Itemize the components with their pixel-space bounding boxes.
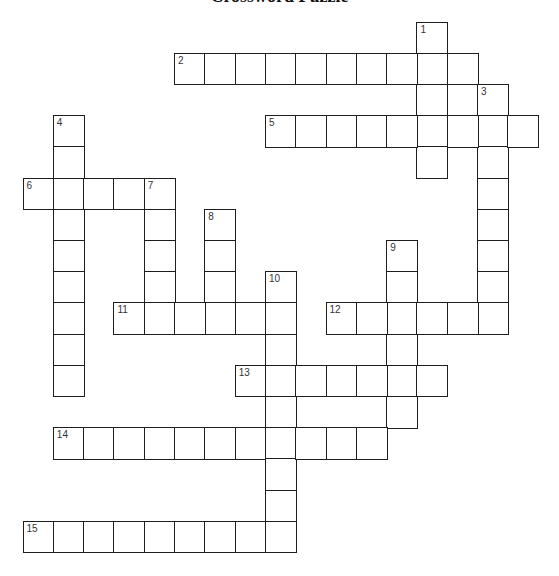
crossword-cell[interactable] xyxy=(265,365,297,398)
crossword-cell[interactable] xyxy=(265,53,297,86)
crossword-cell[interactable] xyxy=(447,53,479,86)
crossword-cell[interactable] xyxy=(265,490,297,523)
crossword-cell[interactable] xyxy=(204,302,236,335)
crossword-cell[interactable] xyxy=(144,271,176,304)
clue-number: 13 xyxy=(239,368,250,378)
crossword-cell[interactable] xyxy=(83,521,115,554)
crossword-cell[interactable] xyxy=(265,521,297,554)
crossword-cell[interactable] xyxy=(144,209,176,242)
crossword-cell[interactable] xyxy=(53,178,85,211)
crossword-cell[interactable]: 15 xyxy=(23,521,55,554)
crossword-cell[interactable] xyxy=(144,521,176,554)
crossword-cell[interactable]: 9 xyxy=(386,240,418,273)
crossword-cell[interactable] xyxy=(356,427,388,460)
crossword-cell[interactable] xyxy=(295,427,327,460)
crossword-cell[interactable]: 2 xyxy=(174,53,206,86)
crossword-cell[interactable] xyxy=(326,365,358,398)
crossword-cell[interactable] xyxy=(204,427,236,460)
crossword-cell[interactable] xyxy=(386,334,418,367)
crossword-cell[interactable] xyxy=(83,427,115,460)
crossword-cell[interactable] xyxy=(174,302,206,335)
clue-number: 12 xyxy=(330,305,341,315)
crossword-cell[interactable]: 4 xyxy=(53,115,85,148)
crossword-cell[interactable]: 12 xyxy=(326,302,358,335)
crossword-cell[interactable] xyxy=(477,271,509,304)
crossword-cell[interactable] xyxy=(204,271,236,304)
crossword-cell[interactable] xyxy=(477,146,509,179)
crossword-cell[interactable]: 1 xyxy=(416,22,448,55)
crossword-cell[interactable] xyxy=(53,271,85,304)
crossword-cell[interactable] xyxy=(144,240,176,273)
crossword-cell[interactable] xyxy=(386,302,418,335)
crossword-cell[interactable] xyxy=(356,53,388,86)
crossword-cell[interactable]: 14 xyxy=(53,427,85,460)
crossword-cell[interactable] xyxy=(477,209,509,242)
crossword-cell[interactable] xyxy=(174,521,206,554)
crossword-cell[interactable] xyxy=(235,302,267,335)
crossword-cell[interactable] xyxy=(235,427,267,460)
crossword-cell[interactable] xyxy=(356,302,388,335)
crossword-cell[interactable] xyxy=(113,427,145,460)
clue-number: 2 xyxy=(178,56,184,66)
crossword-cell[interactable]: 3 xyxy=(477,84,509,117)
crossword-cell[interactable] xyxy=(113,178,145,211)
crossword-cell[interactable] xyxy=(477,302,509,335)
crossword-cell[interactable] xyxy=(83,178,115,211)
crossword-cell[interactable] xyxy=(53,334,85,367)
crossword-cell[interactable] xyxy=(53,240,85,273)
crossword-cell[interactable] xyxy=(295,365,327,398)
crossword-cell[interactable] xyxy=(477,115,509,148)
clue-number: 6 xyxy=(27,181,33,191)
crossword-cell[interactable] xyxy=(386,365,418,398)
crossword-cell[interactable]: 5 xyxy=(265,115,297,148)
crossword-cell[interactable] xyxy=(204,521,236,554)
crossword-cell[interactable] xyxy=(265,396,297,429)
crossword-cell[interactable] xyxy=(356,115,388,148)
crossword-cell[interactable]: 13 xyxy=(235,365,267,398)
crossword-cell[interactable] xyxy=(204,240,236,273)
crossword-cell[interactable] xyxy=(416,302,448,335)
crossword-cell[interactable]: 10 xyxy=(265,271,297,304)
crossword-cell[interactable] xyxy=(386,53,418,86)
crossword-cell[interactable] xyxy=(113,521,145,554)
crossword-cell[interactable] xyxy=(386,271,418,304)
crossword-cell[interactable]: 7 xyxy=(144,178,176,211)
crossword-cell[interactable] xyxy=(507,115,539,148)
crossword-cell[interactable] xyxy=(265,334,297,367)
crossword-cell[interactable] xyxy=(416,365,448,398)
crossword-cell[interactable] xyxy=(477,178,509,211)
crossword-cell[interactable] xyxy=(144,302,176,335)
crossword-cell[interactable] xyxy=(265,427,297,460)
crossword-cell[interactable]: 6 xyxy=(23,178,55,211)
crossword-cell[interactable] xyxy=(326,53,358,86)
crossword-cell[interactable]: 8 xyxy=(204,209,236,242)
crossword-cell[interactable] xyxy=(477,240,509,273)
crossword-cell[interactable] xyxy=(447,115,479,148)
crossword-cell[interactable] xyxy=(265,302,297,335)
crossword-cell[interactable] xyxy=(174,427,206,460)
crossword-cell[interactable] xyxy=(235,521,267,554)
crossword-cell[interactable] xyxy=(416,115,448,148)
crossword-cell[interactable] xyxy=(356,365,388,398)
crossword-cell[interactable] xyxy=(386,115,418,148)
crossword-cell[interactable] xyxy=(204,53,236,86)
crossword-grid: 123456789101112131415 xyxy=(0,0,559,576)
crossword-cell[interactable] xyxy=(53,146,85,179)
crossword-cell[interactable] xyxy=(447,302,479,335)
crossword-cell[interactable] xyxy=(295,115,327,148)
crossword-cell[interactable] xyxy=(416,84,448,117)
crossword-cell[interactable] xyxy=(53,209,85,242)
crossword-cell[interactable] xyxy=(53,365,85,398)
crossword-cell[interactable] xyxy=(53,302,85,335)
crossword-cell[interactable] xyxy=(265,458,297,491)
crossword-cell[interactable] xyxy=(416,146,448,179)
crossword-cell[interactable] xyxy=(326,115,358,148)
crossword-cell[interactable] xyxy=(144,427,176,460)
crossword-cell[interactable] xyxy=(386,396,418,429)
crossword-cell[interactable] xyxy=(416,53,448,86)
crossword-cell[interactable] xyxy=(295,53,327,86)
crossword-cell[interactable] xyxy=(235,53,267,86)
crossword-cell[interactable] xyxy=(326,427,358,460)
crossword-cell[interactable] xyxy=(53,521,85,554)
crossword-cell[interactable]: 11 xyxy=(113,302,145,335)
